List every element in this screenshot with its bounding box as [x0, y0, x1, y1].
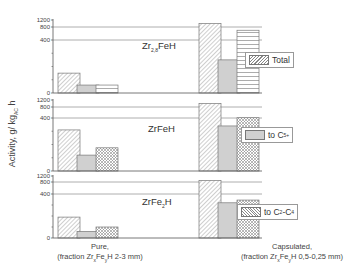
y-tick-label: 800: [40, 179, 51, 185]
panel-label-zr28feh: Zr2,8FeH: [142, 40, 176, 53]
y-tick-label: 400: [40, 37, 51, 43]
panel-label-zrfeh: ZrFeH: [148, 123, 175, 134]
y-tick-label: 1200: [37, 173, 51, 179]
legend-c2-c4: to C2-C4: [237, 204, 298, 220]
bar-to-c2-c4: [237, 118, 259, 171]
panel-2: 04008001200: [37, 97, 262, 174]
y-axis-label: Activity, g/ kgAC h: [7, 69, 19, 199]
legend-swatch-crosshatch: [241, 207, 261, 217]
x-category-capsulated: Capsulated, (fraction ZrxFeyH 0,5-0,25 m…: [235, 242, 349, 265]
x-category-pure: Pure, (fraction ZrxFeyH 2-3 mm): [50, 242, 150, 265]
y-tick-label: 400: [40, 191, 51, 197]
panel-1: 04008001200: [37, 17, 262, 96]
y-tick-label: 1200: [37, 17, 51, 23]
y-tick-label: 0: [47, 235, 51, 241]
legend-total: Total: [245, 52, 294, 68]
bar-to-c2-c4: [96, 227, 118, 238]
bar-to-c2-c4: [96, 148, 118, 171]
y-tick-label: 800: [40, 24, 51, 30]
y-tick-label: 400: [40, 115, 51, 121]
y-tick-label: 1200: [37, 97, 51, 103]
panel-label-zrfe2h: ZrFe2H: [142, 196, 172, 209]
y-tick-label: 800: [40, 104, 51, 110]
bar-to-c2-c4: [96, 85, 118, 93]
y-tick-label: 0: [47, 90, 51, 96]
legend-c5plus: to C5+: [241, 127, 293, 143]
legend-swatch-diagonal: [249, 55, 269, 65]
legend-swatch-gray: [245, 130, 265, 140]
